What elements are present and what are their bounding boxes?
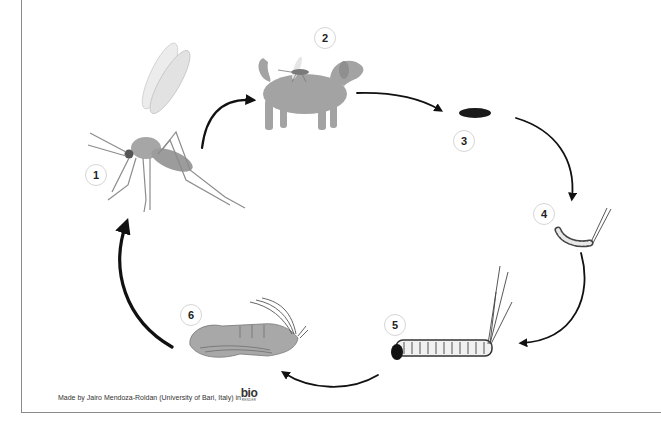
arrow-1-to-2 (202, 100, 252, 148)
biorender-logo: bio RENDER (238, 388, 260, 402)
stage-badge-1: 1 (85, 164, 107, 186)
stage-badge-4: 4 (533, 203, 555, 225)
late-larva-icon (391, 266, 512, 360)
stage-badge-5: 5 (384, 314, 406, 336)
arrow-2-to-3 (357, 93, 440, 110)
arrow-6-to-1 (120, 224, 172, 347)
stage-badge-3: 3 (453, 130, 475, 152)
arrow-4-to-5 (522, 253, 585, 343)
logo-main-text: bio (238, 388, 260, 398)
arrow-5-to-6 (284, 373, 378, 387)
adult-mosquito-icon (88, 39, 245, 212)
early-larva-icon (558, 208, 611, 244)
egg-icon (459, 108, 491, 118)
arrow-3-to-4 (516, 118, 573, 198)
dog-with-mosquito-icon (259, 56, 364, 130)
pupa-icon (190, 298, 308, 357)
stage-badge-2: 2 (314, 27, 336, 49)
stage-badge-6: 6 (180, 304, 202, 326)
credit-text: Made by Jairo Mendoza-Roldan (University… (58, 394, 241, 401)
